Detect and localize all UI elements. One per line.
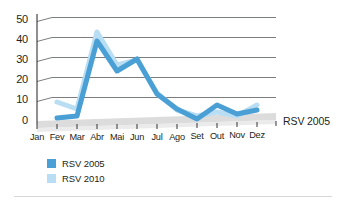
rsv-line-chart: 50 40 30 20 10 0 Jan Fev Mar Abr Mai Jun…	[0, 0, 345, 202]
legend-swatch-icon-rsv-2005	[47, 159, 56, 168]
bottom-divider	[14, 196, 332, 197]
series-end-label: RSV 2005	[283, 115, 330, 127]
y-tick-30: 30	[6, 53, 28, 65]
x-tick-dez: Dez	[244, 130, 270, 140]
legend-label-rsv-2005: RSV 2005	[62, 158, 105, 169]
y-tick-40: 40	[6, 33, 28, 45]
y-tick-0: 0	[6, 114, 28, 126]
y-tick-50: 50	[6, 13, 28, 25]
legend-item-rsv-2005[interactable]: RSV 2005	[47, 156, 105, 171]
legend-swatch-icon-rsv-2010	[47, 174, 56, 183]
series-line-rsv-2005	[57, 41, 257, 119]
chart-legend: RSV 2005 RSV 2010	[47, 156, 105, 186]
y-tick-20: 20	[6, 73, 28, 85]
legend-item-rsv-2010[interactable]: RSV 2010	[47, 171, 105, 186]
legend-label-rsv-2010: RSV 2010	[62, 173, 105, 184]
y-tick-10: 10	[6, 93, 28, 105]
